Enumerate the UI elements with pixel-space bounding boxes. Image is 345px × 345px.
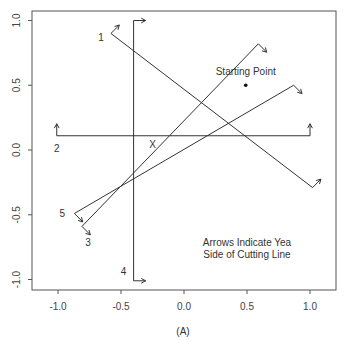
cutting-line-chart: -1.0-0.50.00.51.0 -1.0-0.50.00.51.0 1234… bbox=[0, 0, 345, 345]
y-tick-label: -1.0 bbox=[11, 270, 22, 288]
x-tick-label: -0.5 bbox=[112, 301, 130, 312]
x-tick-label: 1.0 bbox=[303, 301, 317, 312]
x-tick-label: 0.0 bbox=[177, 301, 191, 312]
cutting-line-label: 5 bbox=[60, 208, 66, 219]
cutting-line-label: 2 bbox=[54, 143, 60, 154]
x-axis: -1.0-0.50.00.51.0 bbox=[49, 290, 317, 312]
cutting-line-1: 1 bbox=[98, 25, 321, 188]
x-tick-label: 0.5 bbox=[240, 301, 254, 312]
x-marker-label: X bbox=[149, 139, 156, 150]
cutting-line-label: 4 bbox=[121, 266, 127, 277]
y-tick-label: 0.0 bbox=[11, 143, 22, 157]
cutting-line-segment bbox=[74, 85, 293, 213]
x-tick-label: -1.0 bbox=[49, 301, 67, 312]
figure-caption: (A) bbox=[176, 326, 189, 337]
cutting-line-label: 1 bbox=[98, 32, 104, 43]
annotation-line-2: Side of Cutting Line bbox=[203, 249, 291, 260]
cutting-line-label: 3 bbox=[85, 237, 91, 248]
y-tick-label: 0.5 bbox=[11, 78, 22, 92]
cutting-line-4: 4 bbox=[121, 18, 146, 283]
cutting-line-5: 5 bbox=[60, 85, 302, 222]
y-tick-label: 1.0 bbox=[11, 13, 22, 27]
starting-point-label: Starting Point bbox=[216, 66, 276, 77]
annotation-line-1: Arrows Indicate Yea bbox=[203, 237, 292, 248]
y-tick-label: -0.5 bbox=[11, 206, 22, 224]
starting-point-marker bbox=[244, 83, 248, 87]
y-axis: -1.0-0.50.00.51.0 bbox=[11, 13, 32, 288]
